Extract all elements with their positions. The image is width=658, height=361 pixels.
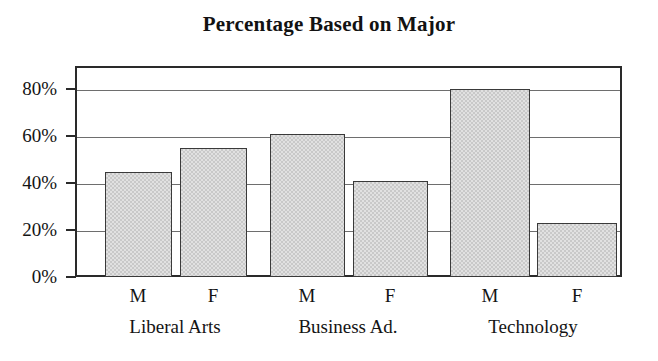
bar-liberal-arts-m[interactable] — [105, 172, 172, 278]
x-axis-series-label: F — [385, 285, 396, 307]
x-axis-series-label: F — [208, 285, 219, 307]
x-axis-series-label: M — [299, 285, 316, 307]
bars-layer — [75, 66, 622, 277]
chart-title: Percentage Based on Major — [0, 12, 658, 37]
x-axis-series-label: M — [482, 285, 499, 307]
y-axis-tick-label: 60% — [22, 125, 57, 147]
x-axis: MFMFMFLiberal ArtsBusiness Ad.Technology — [75, 279, 622, 359]
bar-liberal-arts-f[interactable] — [180, 148, 247, 277]
bar-business-ad-f[interactable] — [353, 181, 428, 277]
x-axis-group-label: Business Ad. — [298, 316, 397, 338]
x-axis-group-label: Liberal Arts — [129, 316, 220, 338]
x-axis-group-label: Technology — [488, 316, 577, 338]
bar-business-ad-m[interactable] — [270, 134, 345, 277]
x-axis-series-label: M — [130, 285, 147, 307]
chart-root: Percentage Based on Major 0%20%40%60%80%… — [0, 0, 658, 361]
x-axis-series-label: F — [572, 285, 583, 307]
y-axis: 0%20%40%60%80% — [0, 66, 66, 277]
y-axis-tick-label: 0% — [32, 266, 57, 288]
bar-technology-m[interactable] — [450, 89, 530, 277]
bar-technology-f[interactable] — [537, 223, 617, 277]
y-axis-tick-label: 20% — [22, 219, 57, 241]
y-axis-tick-label: 40% — [22, 172, 57, 194]
y-axis-tick-label: 80% — [22, 78, 57, 100]
